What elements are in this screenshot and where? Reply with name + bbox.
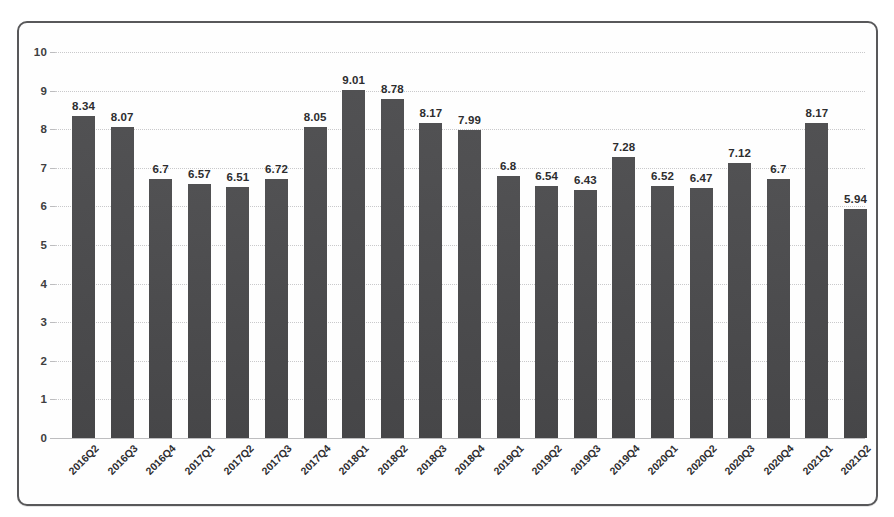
x-axis-tick-label: 2017Q4: [298, 442, 333, 477]
bar-value-label: 7.28: [612, 141, 635, 153]
y-axis-tick-label: 6: [40, 200, 47, 212]
bar-rect[interactable]: [265, 179, 288, 438]
x-axis-tick-label: 2017Q2: [220, 442, 255, 477]
bar-rect[interactable]: [574, 190, 597, 438]
x-axis-tick-label: 2017Q1: [182, 442, 217, 477]
bar-value-label: 8.17: [805, 107, 828, 119]
x-axis-labels: 2016Q22016Q32016Q42017Q12017Q22017Q32017…: [55, 440, 865, 502]
bar-value-label: 8.07: [111, 111, 134, 123]
bar-rect[interactable]: [188, 184, 211, 438]
x-axis-tick-label: 2020Q4: [761, 442, 796, 477]
bar-rect[interactable]: [458, 130, 481, 438]
bar-value-label: 7.12: [728, 147, 751, 159]
bar-rect[interactable]: [419, 123, 442, 438]
bar-rect[interactable]: [497, 176, 520, 438]
y-axis-tick-label: 7: [40, 162, 47, 174]
x-axis-tick-label: 2016Q3: [105, 442, 140, 477]
bar-rect[interactable]: [226, 187, 249, 438]
bar-series: 8.348.076.76.576.516.728.059.018.788.177…: [55, 52, 865, 438]
y-axis-tick-label: 5: [40, 239, 47, 251]
y-axis-tick-label: 1: [40, 393, 47, 405]
bar-value-label: 8.17: [419, 107, 442, 119]
x-axis-tick-label: 2019Q3: [568, 442, 603, 477]
x-axis-tick-label: 2019Q4: [606, 442, 641, 477]
y-axis-tick-label: 3: [40, 316, 47, 328]
bar-rect[interactable]: [844, 209, 867, 438]
y-axis-tick-label: 10: [34, 46, 47, 58]
gridline: [55, 438, 865, 439]
x-axis-tick-label: 2020Q1: [645, 442, 680, 477]
bar-rect[interactable]: [111, 127, 134, 439]
bar-rect[interactable]: [149, 179, 172, 438]
bar-value-label: 8.05: [304, 111, 327, 123]
bar-rect[interactable]: [612, 157, 635, 438]
bar-rect[interactable]: [728, 163, 751, 438]
y-axis-tick-label: 8: [40, 123, 47, 135]
bar-value-label: 7.99: [458, 114, 481, 126]
y-axis-tick-mark: [50, 438, 55, 439]
x-axis-tick-label: 2017Q3: [259, 442, 294, 477]
bar-value-label: 6.47: [690, 172, 713, 184]
y-axis-tick-label: 0: [40, 432, 47, 444]
y-axis-tick-label: 2: [40, 355, 47, 367]
bar-rect[interactable]: [342, 90, 365, 438]
x-axis-tick-label: 2019Q2: [529, 442, 564, 477]
x-axis-tick-label: 2016Q4: [143, 442, 178, 477]
bar-value-label: 8.34: [72, 100, 95, 112]
bar-rect[interactable]: [767, 179, 790, 438]
x-axis-tick-label: 2020Q2: [684, 442, 719, 477]
bar-value-label: 9.01: [342, 74, 365, 86]
bar-rect[interactable]: [805, 123, 828, 438]
bar-value-label: 6.7: [153, 163, 169, 175]
plot-area: 012345678910 8.348.076.76.576.516.728.05…: [55, 52, 865, 438]
bar-value-label: 6.43: [574, 174, 597, 186]
bar-value-label: 6.72: [265, 163, 288, 175]
bar-rect[interactable]: [690, 188, 713, 438]
bar-value-label: 6.8: [500, 160, 516, 172]
x-axis-tick-label: 2016Q2: [66, 442, 101, 477]
bar-rect[interactable]: [304, 127, 327, 438]
bar-value-label: 6.52: [651, 170, 674, 182]
bar-value-label: 6.57: [188, 168, 211, 180]
y-axis-tick-label: 9: [40, 85, 47, 97]
x-axis-tick-label: 2018Q4: [452, 442, 487, 477]
bar-value-label: 8.78: [381, 83, 404, 95]
bar-value-label: 6.51: [226, 171, 249, 183]
bar-rect[interactable]: [381, 99, 404, 438]
bar-value-label: 5.94: [844, 193, 867, 205]
bar-value-label: 6.7: [770, 163, 786, 175]
bar-rect[interactable]: [651, 186, 674, 438]
x-axis-tick-label: 2018Q3: [413, 442, 448, 477]
x-axis-tick-label: 2019Q1: [491, 442, 526, 477]
bar-value-label: 6.54: [535, 170, 558, 182]
bar-rect[interactable]: [72, 116, 95, 438]
x-axis-tick-label: 2021Q1: [799, 442, 834, 477]
bar-rect[interactable]: [535, 186, 558, 438]
x-axis-tick-label: 2018Q2: [375, 442, 410, 477]
y-axis-tick-label: 4: [40, 278, 47, 290]
x-axis-tick-label: 2018Q1: [336, 442, 371, 477]
x-axis-tick-label: 2020Q3: [722, 442, 757, 477]
